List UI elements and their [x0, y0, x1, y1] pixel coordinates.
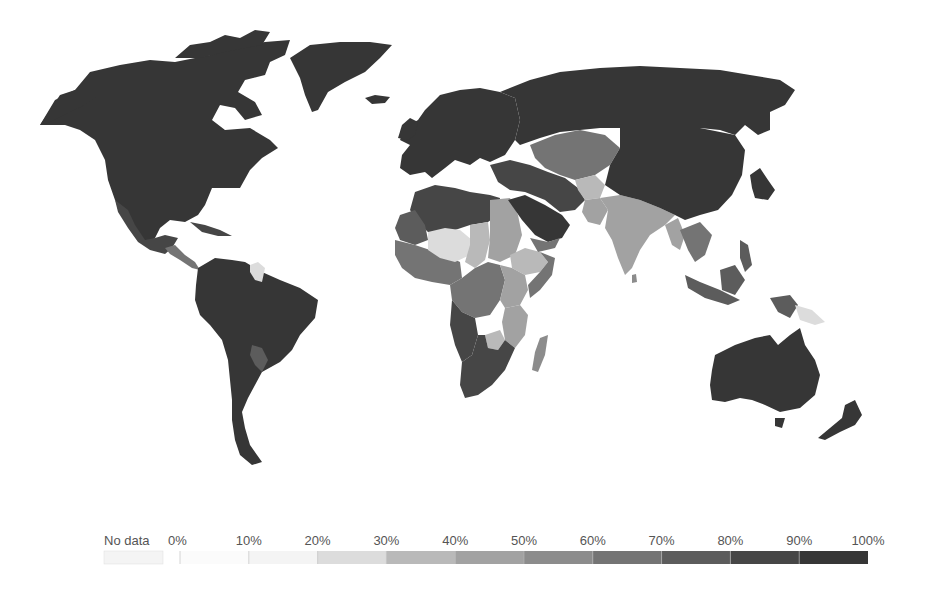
region-sri-lanka: [632, 274, 637, 283]
region-new-guinea-west: [770, 295, 798, 318]
legend-bin-0-10: [180, 551, 249, 564]
legend-tick-label: 70%: [649, 533, 675, 548]
legend-bin-60-70: [593, 551, 662, 564]
legend-bin-50-60: [524, 551, 593, 564]
legend-no-data-label: No data: [104, 533, 150, 548]
legend-no-data-swatch: [104, 551, 163, 564]
map-legend: No data 0%10%20%30%40%50%60%70%80%90%100…: [104, 533, 885, 564]
legend-tick-label: 50%: [511, 533, 537, 548]
region-tasmania: [775, 418, 785, 428]
legend-bin-90-100: [799, 551, 868, 564]
region-iceland: [365, 95, 390, 104]
region-japan-korea: [750, 168, 775, 200]
legend-bin-20-30: [318, 551, 387, 564]
legend-tick-label: 30%: [373, 533, 399, 548]
map-regions: [40, 30, 862, 465]
legend-tick-labels: 0%10%20%30%40%50%60%70%80%90%100%: [168, 533, 885, 548]
region-caribbean: [190, 222, 232, 236]
legend-tick-label: 90%: [786, 533, 812, 548]
region-southeast-asia: [680, 222, 712, 262]
legend-bin-10-20: [249, 551, 318, 564]
legend-bins: [180, 551, 868, 564]
legend-tick-label: 60%: [580, 533, 606, 548]
legend-bin-80-90: [730, 551, 799, 564]
legend-bin-70-80: [662, 551, 731, 564]
legend-tick-label: 100%: [851, 533, 885, 548]
legend-tick-label: 0%: [168, 533, 187, 548]
region-borneo: [720, 265, 745, 295]
region-madagascar: [532, 335, 548, 372]
legend-bin-40-50: [455, 551, 524, 564]
region-australia: [710, 328, 820, 412]
region-central-america: [165, 245, 200, 270]
legend-tick-label: 40%: [442, 533, 468, 548]
legend-tick-label: 20%: [305, 533, 331, 548]
region-north-america: [40, 40, 290, 245]
world-choropleth-map: No data 0%10%20%30%40%50%60%70%80%90%100…: [0, 0, 925, 598]
legend-tick-label: 10%: [236, 533, 262, 548]
legend-tick-label: 80%: [717, 533, 743, 548]
region-philippines: [740, 240, 752, 272]
region-new-zealand: [818, 400, 862, 440]
region-papua-new-guinea: [795, 305, 825, 325]
legend-bin-30-40: [386, 551, 455, 564]
